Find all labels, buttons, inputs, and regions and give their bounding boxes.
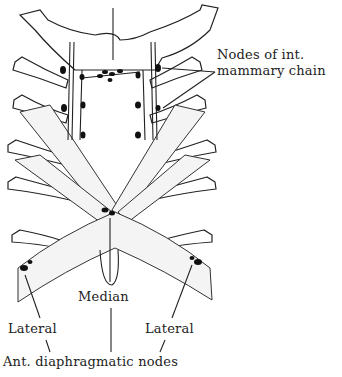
anatomy-diagram: Nodes of int. mammary chain Median Later… xyxy=(0,0,342,377)
label-median: Median xyxy=(78,290,129,303)
label-lateral-right: Lateral xyxy=(145,322,194,335)
transversus-muscle xyxy=(15,105,210,222)
label-ant-diaphragmatic-nodes: Ant. diaphragmatic nodes xyxy=(3,355,178,368)
label-int-mammary-line2: mammary chain xyxy=(217,64,326,77)
label-int-mammary-line1: Nodes of int. xyxy=(217,48,304,61)
label-lateral-left: Lateral xyxy=(8,322,57,335)
